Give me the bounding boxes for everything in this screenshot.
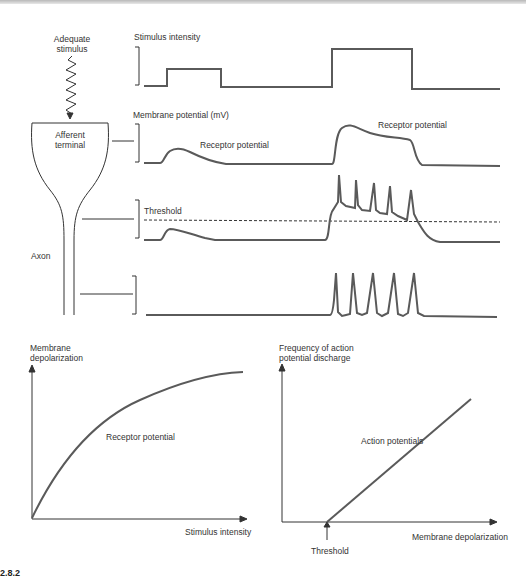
axon-initial-trace [144, 175, 500, 242]
receptor-potential-small-label: Receptor potential [200, 140, 269, 150]
bl-y-label-line2: depolarization [30, 353, 83, 363]
br-threshold-label: Threshold [311, 546, 349, 556]
chart-receptor-axes [29, 365, 247, 522]
stimulus-label-line2: stimulus [44, 44, 100, 54]
afferent-terminal-label: Afferent terminal [40, 130, 100, 150]
terminal-label-line1: Afferent [40, 130, 100, 140]
bl-curve-label: Receptor potential [106, 432, 175, 442]
brackets [132, 47, 139, 314]
receptor-potential-large-label: Receptor potential [378, 120, 447, 130]
br-y-label-line2: potential discharge [279, 353, 354, 363]
stimulus-label: Adequate stimulus [44, 34, 100, 54]
stimulus-intensity-trace [144, 49, 500, 89]
br-y-label-line1: Frequency of action [279, 343, 354, 353]
bl-x-axis-label: Stimulus intensity [185, 527, 251, 537]
stimulus-label-line1: Adequate [44, 34, 100, 44]
br-curve-label: Action potentials [361, 436, 423, 446]
membrane-potential-title: Membrane potential (mV) [133, 110, 229, 120]
receptor-potential-curve [32, 372, 243, 518]
br-y-axis-label: Frequency of action potential discharge [279, 343, 354, 363]
bl-y-label-line1: Membrane [30, 343, 83, 353]
threshold-line [144, 220, 500, 222]
receptor-potential-trace [144, 125, 500, 166]
connector-lines [80, 141, 134, 294]
figure-caption: 2.8.2 [0, 568, 20, 578]
action-potentials-line [327, 399, 471, 522]
stimulus-intensity-title: Stimulus intensity [134, 32, 200, 42]
bl-y-axis-label: Membrane depolarization [30, 343, 83, 363]
stimulus-zigzag-icon [66, 56, 76, 119]
br-x-axis-label: Membrane depolarization [412, 532, 508, 542]
diagram-canvas [0, 0, 526, 578]
axon-label: Axon [31, 251, 50, 261]
chart-action-axes [279, 364, 497, 540]
terminal-label-line2: terminal [40, 140, 100, 150]
action-potential-trace [146, 273, 497, 317]
threshold-label: Threshold [144, 206, 182, 216]
